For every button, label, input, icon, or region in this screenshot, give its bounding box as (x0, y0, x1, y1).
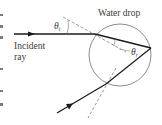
normal-exit-dashed (88, 68, 116, 118)
theta-i-label: θi (54, 21, 61, 32)
water-drop-label: Water drop (98, 8, 140, 18)
theta-r-leader-line (119, 49, 130, 51)
theta-i-arc (67, 20, 68, 34)
reflected-ray (106, 48, 151, 84)
incident-arrow-icon (28, 32, 35, 37)
refracted-ray (95, 34, 151, 48)
incident-label-line1: Incident (14, 41, 45, 51)
theta-r-arc (114, 39, 115, 46)
theta-r-label: θr (131, 47, 139, 58)
incident-label-line2: ray (14, 52, 26, 62)
water-drop-diagram: Water drop θi θr Incident ray (0, 0, 162, 125)
